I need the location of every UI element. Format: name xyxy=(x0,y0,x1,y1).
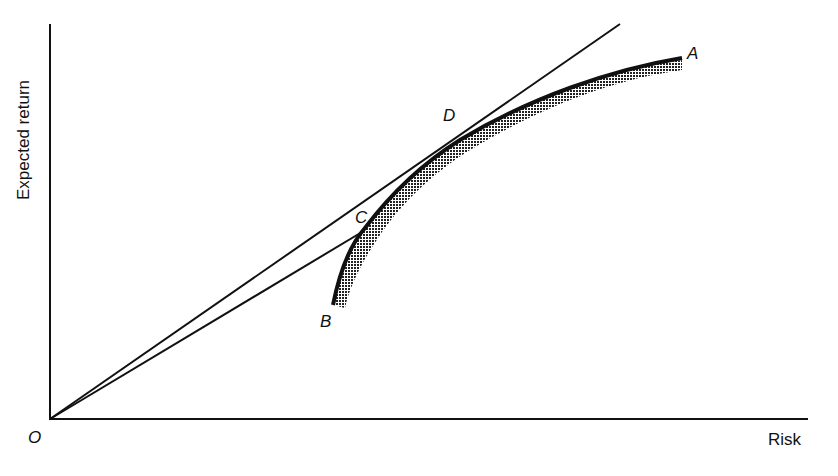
point-c-label: C xyxy=(355,208,367,228)
y-axis-label: Expected return xyxy=(14,80,34,200)
x-axis-label: Risk xyxy=(768,430,801,450)
frontier-shade xyxy=(333,60,682,308)
point-d-label: D xyxy=(443,106,455,126)
origin-label: O xyxy=(28,428,41,448)
tangent-line-o-d xyxy=(50,24,620,419)
point-a-label: A xyxy=(687,44,698,64)
line-o-c xyxy=(50,232,362,419)
point-b-label: B xyxy=(320,312,331,332)
risk-return-diagram xyxy=(0,0,838,476)
frontier-curve xyxy=(333,58,682,305)
